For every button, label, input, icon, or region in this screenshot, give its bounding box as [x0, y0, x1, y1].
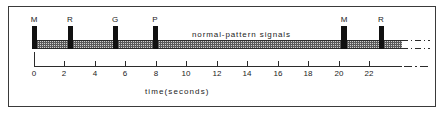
pulse-label-r-2: R	[373, 15, 389, 24]
axis-tick-major	[278, 61, 279, 66]
signal-continuation-lower	[402, 48, 430, 49]
pulse-label-m-1: M	[26, 15, 42, 24]
time-axis-line	[34, 66, 402, 67]
pulse-marker-r-1	[68, 26, 73, 49]
pulse-marker-r-2	[379, 26, 384, 49]
time-axis-continuation	[404, 66, 430, 67]
pulse-marker-p-1	[153, 26, 158, 49]
axis-tick-label: 10	[176, 69, 196, 78]
axis-tick-major	[156, 61, 157, 66]
axis-tick-major	[95, 61, 96, 66]
axis-tick-label: 2	[54, 69, 74, 78]
axis-tick-major	[369, 61, 370, 66]
signal-bar-segment	[158, 40, 341, 49]
axis-tick-major	[339, 61, 340, 66]
axis-tick-major	[186, 61, 187, 66]
pulse-label-m-2: M	[336, 15, 352, 24]
axis-tick-label: 18	[298, 69, 318, 78]
axis-tick-label: 22	[359, 69, 379, 78]
signal-bar-segment	[347, 40, 379, 49]
time-axis-caption: time(seconds)	[145, 87, 210, 96]
timeline-plot: M R G P M R normal-pattern signals	[0, 0, 446, 116]
axis-tick-label: 16	[268, 69, 288, 78]
pulse-label-r-1: R	[62, 15, 78, 24]
signal-bar-segment	[118, 40, 153, 49]
pulse-label-p-1: P	[147, 15, 163, 24]
axis-tick-label: 4	[85, 69, 105, 78]
signal-continuation-upper	[402, 40, 430, 41]
axis-tick-label: 20	[329, 69, 349, 78]
axis-tick-major	[247, 61, 248, 66]
signal-trace-label: normal-pattern signals	[192, 30, 291, 39]
axis-tick-major	[308, 61, 309, 66]
signal-bar-segment	[73, 40, 113, 49]
axis-tick-major	[125, 61, 126, 66]
pulse-marker-g-1	[113, 26, 118, 49]
axis-tick-label: 8	[146, 69, 166, 78]
signal-bar-segment	[384, 40, 402, 49]
axis-tick-label: 0	[24, 69, 44, 78]
axis-tick-major	[217, 61, 218, 66]
axis-tick-major	[34, 61, 35, 66]
signal-bar-segment	[37, 40, 68, 49]
axis-tick-label: 6	[115, 69, 135, 78]
axis-tick-label: 12	[207, 69, 227, 78]
pulse-marker-m-2	[341, 26, 347, 49]
axis-tick-major	[64, 61, 65, 66]
pulse-label-g-1: G	[107, 15, 123, 24]
figure-root: M R G P M R normal-pattern signals	[0, 0, 446, 116]
pulse-marker-m-1	[32, 26, 37, 49]
axis-tick-label: 14	[237, 69, 257, 78]
